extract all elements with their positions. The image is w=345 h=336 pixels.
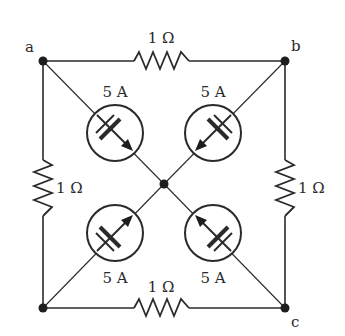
- resistor-right-label: 1 Ω: [298, 179, 325, 197]
- resistor-left-label: 1 Ω: [56, 179, 83, 197]
- resistor-right: 1 Ω: [276, 160, 325, 216]
- node-c-label: c: [291, 313, 299, 331]
- current-source-bottom-right-label: 5 A: [200, 269, 225, 287]
- resistor-zigzag-icon: [34, 160, 52, 216]
- current-source-bottom-left: 5 A: [87, 205, 143, 287]
- resistor-left: 1 Ω: [34, 160, 83, 216]
- current-source-top-right-label: 5 A: [200, 83, 225, 101]
- current-source-top-right: 5 A: [185, 83, 241, 161]
- node-c-dot: [281, 304, 290, 313]
- circuit-diagram: 1 Ω 1 Ω 1 Ω 1 Ω 5 A 5 A: [0, 0, 345, 336]
- node-center-dot: [160, 180, 169, 189]
- resistor-bottom-label: 1 Ω: [148, 278, 175, 296]
- node-bottom-left-dot: [39, 304, 48, 313]
- resistor-bottom: 1 Ω: [134, 278, 189, 316]
- resistor-zigzag-icon: [276, 160, 294, 216]
- node-a-label: a: [25, 38, 34, 56]
- node-a-dot: [39, 57, 48, 66]
- resistor-zigzag-icon: [134, 299, 189, 316]
- current-source-bottom-left-label: 5 A: [102, 269, 127, 287]
- resistor-zigzag-icon: [134, 52, 189, 69]
- resistor-top-label: 1 Ω: [148, 29, 175, 47]
- node-b-dot: [281, 57, 290, 66]
- current-source-top-left-label: 5 A: [102, 83, 127, 101]
- current-source-top-left: 5 A: [87, 83, 143, 161]
- current-source-bottom-right: 5 A: [185, 205, 241, 287]
- node-b-label: b: [291, 37, 301, 55]
- resistor-top: 1 Ω: [134, 29, 189, 69]
